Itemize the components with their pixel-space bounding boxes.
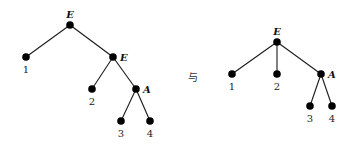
tree-diagrams: E1E2A34E12A34 与 <box>0 0 359 148</box>
edges-layer <box>26 25 332 121</box>
leaf-label: 4 <box>329 113 335 124</box>
tree-right-edge <box>232 42 277 74</box>
leaf-node-1 <box>228 70 236 78</box>
leaf-node-4 <box>146 117 154 125</box>
leaf-label: 1 <box>229 81 235 92</box>
diagram-canvas: E1E2A34E12A34 与 <box>0 0 359 148</box>
node-label: A <box>142 84 151 95</box>
internal-node-a <box>132 85 140 93</box>
tree-right-edge <box>310 74 321 106</box>
node-label: E <box>272 26 281 37</box>
tree-left-edge <box>70 25 113 57</box>
node-label: E <box>65 9 74 20</box>
leaf-node-2 <box>88 85 96 93</box>
leaf-label: 1 <box>23 64 29 75</box>
leaf-node-1 <box>22 53 30 61</box>
tree-left-edge <box>92 57 113 89</box>
leaf-label: 4 <box>147 128 153 139</box>
leaf-node-3 <box>117 117 125 125</box>
internal-node-e <box>273 38 281 46</box>
leaf-label: 3 <box>118 128 124 139</box>
node-label: E <box>119 52 128 63</box>
connector-text: 与 <box>188 72 198 83</box>
tree-left-edge <box>26 25 70 57</box>
leaf-node-3 <box>306 102 314 110</box>
internal-node-a <box>317 70 325 78</box>
internal-node-e <box>109 53 117 61</box>
tree-right-edge <box>277 42 321 74</box>
leaf-label: 2 <box>274 81 280 92</box>
internal-node-e <box>66 21 74 29</box>
leaf-label: 3 <box>307 113 313 124</box>
leaf-node-2 <box>273 70 281 78</box>
node-label: A <box>327 69 336 80</box>
tree-left-edge <box>121 89 136 121</box>
nodes-layer <box>22 21 336 125</box>
leaf-node-4 <box>328 102 336 110</box>
leaf-label: 2 <box>89 96 95 107</box>
